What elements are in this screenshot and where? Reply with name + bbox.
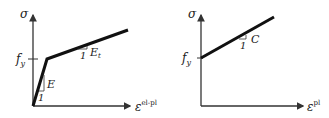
x-axis-label: εel-pl [135, 99, 158, 114]
hardening-slope-label: Et [89, 46, 101, 60]
y-axis-label: σ [20, 7, 29, 21]
elastic-plastic-diagram: σ fy E 1 Et 1 εel-pl [15, 7, 158, 114]
hardening-slope-unit: 1 [80, 50, 86, 61]
x-axis-label: εpl [307, 99, 321, 114]
slope-unit: 1 [240, 40, 246, 51]
stress-strain-diagrams: σ fy E 1 Et 1 εel-pl σ fy C 1 εpl [0, 0, 329, 118]
yield-label: fy [15, 52, 25, 68]
elastic-slope-unit: 1 [38, 92, 44, 103]
y-axis-label: σ [188, 7, 197, 21]
elastic-slope-label: E [46, 78, 55, 91]
stress-strain-curve [201, 17, 274, 58]
plastic-diagram: σ fy C 1 εpl [181, 7, 321, 114]
yield-label: fy [181, 51, 191, 67]
stress-strain-curve [33, 30, 128, 106]
slope-label: C [251, 33, 260, 46]
